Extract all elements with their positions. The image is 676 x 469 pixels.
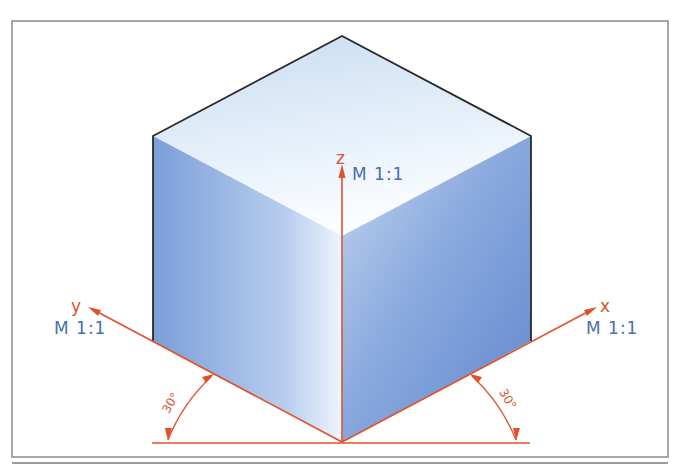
y-axis-scale: M 1:1 bbox=[54, 318, 106, 338]
z-axis-scale: M 1:1 bbox=[352, 164, 404, 184]
x-axis-label: x bbox=[600, 296, 610, 316]
z-axis-label: z bbox=[336, 148, 345, 168]
x-axis-scale: M 1:1 bbox=[586, 318, 638, 338]
y-axis-label: y bbox=[71, 296, 81, 316]
isometric-cube-diagram bbox=[0, 0, 676, 469]
